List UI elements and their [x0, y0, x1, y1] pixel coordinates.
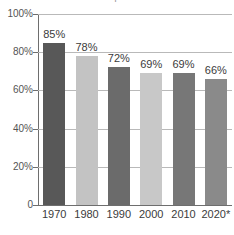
- bar: [43, 43, 65, 205]
- y-axis-tick-label: 40%: [1, 124, 33, 134]
- bar-value-label: 78%: [75, 42, 97, 53]
- plot-area: 85%78%72%69%69%66%: [38, 14, 232, 205]
- bar-value-label: 69%: [172, 59, 194, 70]
- bar: [140, 73, 162, 205]
- bar: [76, 56, 98, 205]
- bar: [205, 79, 227, 205]
- y-axis-tick-label: 80%: [1, 47, 33, 57]
- bar-slot: 72%: [108, 14, 130, 205]
- x-axis-tick-label: 1990: [107, 208, 131, 221]
- gridline: [38, 129, 232, 130]
- bar: [173, 73, 195, 205]
- y-axis-tick-mark: [33, 129, 38, 130]
- bar-value-label: 85%: [43, 29, 65, 40]
- x-axis-tick-label: 2010: [171, 208, 195, 221]
- bar-slot: 66%: [205, 14, 227, 205]
- bar-value-label: 69%: [140, 59, 162, 70]
- y-axis-tick-mark: [33, 90, 38, 91]
- gridline: [38, 90, 232, 91]
- bar-slot: 85%: [43, 14, 65, 205]
- bar-value-label: 66%: [205, 65, 227, 76]
- bar: [108, 67, 130, 205]
- x-axis-tick-label: 1980: [74, 208, 98, 221]
- gridline: [38, 167, 232, 168]
- bar-value-label: 72%: [108, 53, 130, 64]
- bar-chart: p 100%80%60%40%20%0 85%78%72%69%69%66% 1…: [0, 0, 234, 235]
- y-axis-tick-mark: [33, 205, 38, 206]
- chart-title-cropped: p: [0, 0, 234, 7]
- x-axis-line: [38, 205, 232, 206]
- y-axis-labels: 100%80%60%40%20%0: [0, 0, 33, 235]
- y-axis-tick-label: 60%: [1, 85, 33, 95]
- x-axis-tick-label: 2000: [139, 208, 163, 221]
- gridline: [38, 14, 232, 15]
- y-axis-tick-label: 100%: [1, 9, 33, 19]
- bar-slot: 69%: [173, 14, 195, 205]
- gridline: [38, 52, 232, 53]
- y-axis-tick-label: 0: [1, 200, 33, 210]
- x-axis-labels: 197019801990200020102020*: [38, 208, 232, 228]
- bar-slot: 69%: [140, 14, 162, 205]
- chart-title-text: p: [114, 0, 119, 2]
- y-axis-tick-label: 20%: [1, 162, 33, 172]
- x-axis-tick-label: 2020*: [201, 208, 230, 221]
- y-axis-tick-mark: [33, 52, 38, 53]
- x-axis-tick-label: 1970: [42, 208, 66, 221]
- y-axis-tick-mark: [33, 14, 38, 15]
- y-axis-tick-mark: [33, 167, 38, 168]
- bar-slot: 78%: [76, 14, 98, 205]
